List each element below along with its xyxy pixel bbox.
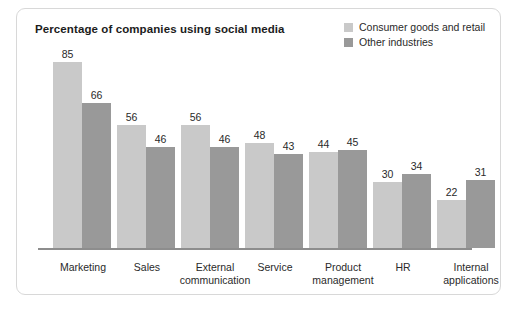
bar-consumer-goods-and-retail[interactable]: 48 — [245, 129, 274, 248]
bar-value-label: 22 — [446, 186, 458, 198]
bar-rect — [402, 174, 431, 248]
category-label-line: applications — [423, 274, 517, 287]
bar-rect — [466, 180, 495, 248]
category-label-marketing: Marketing — [47, 261, 119, 274]
bar-other-industries[interactable]: 45 — [338, 136, 367, 248]
bar-value-label: 30 — [382, 168, 394, 180]
bar-rect — [338, 150, 367, 248]
chart-plot-area: 85 66 Marketing 56 46 Sales — [17, 9, 502, 296]
bar-rect — [146, 147, 175, 248]
bar-rect — [274, 154, 303, 248]
bar-value-label: 45 — [347, 136, 359, 148]
bar-group-external-communication: 56 46 — [181, 111, 239, 248]
bar-value-label: 43 — [283, 140, 295, 152]
bar-value-label: 46 — [155, 133, 167, 145]
bar-group-sales: 56 46 — [117, 111, 175, 248]
bar-group-marketing: 85 66 — [53, 48, 111, 248]
bar-rect — [210, 147, 239, 248]
bar-rect — [82, 103, 111, 248]
category-label-line: Marketing — [47, 261, 119, 274]
bar-rect — [373, 182, 402, 248]
category-label-line: communication — [167, 274, 263, 287]
bar-group-service: 48 43 — [245, 129, 303, 248]
category-label-line: management — [295, 274, 391, 287]
bar-value-label: 85 — [62, 48, 74, 60]
bar-rect — [181, 125, 210, 248]
bar-other-industries[interactable]: 31 — [466, 166, 495, 248]
bar-rect — [309, 152, 338, 248]
bar-other-industries[interactable]: 46 — [146, 133, 175, 248]
x-axis-baseline — [38, 248, 472, 250]
bar-value-label: 34 — [411, 160, 423, 172]
bar-group-product-management: 44 45 — [309, 136, 367, 248]
category-label-line: Internal — [423, 261, 517, 274]
bar-value-label: 48 — [254, 129, 266, 141]
category-label-internal-applications: Internal applications — [423, 261, 517, 287]
bar-consumer-goods-and-retail[interactable]: 56 — [181, 111, 210, 248]
bar-consumer-goods-and-retail[interactable]: 30 — [373, 168, 402, 248]
bar-rect — [245, 143, 274, 248]
bar-consumer-goods-and-retail[interactable]: 56 — [117, 111, 146, 248]
bar-group-internal-applications: 22 31 — [437, 166, 495, 248]
bar-group-hr: 30 34 — [373, 160, 431, 248]
bar-consumer-goods-and-retail[interactable]: 44 — [309, 138, 338, 248]
bar-rect — [437, 200, 466, 248]
chart-card: Percentage of companies using social med… — [16, 8, 501, 295]
bar-value-label: 46 — [219, 133, 231, 145]
bar-other-industries[interactable]: 46 — [210, 133, 239, 248]
bar-other-industries[interactable]: 66 — [82, 89, 111, 248]
bar-consumer-goods-and-retail[interactable]: 85 — [53, 48, 82, 248]
bar-value-label: 44 — [318, 138, 330, 150]
bar-other-industries[interactable]: 34 — [402, 160, 431, 248]
bar-rect — [117, 125, 146, 248]
bar-other-industries[interactable]: 43 — [274, 140, 303, 248]
bar-value-label: 31 — [475, 166, 487, 178]
bar-value-label: 56 — [190, 111, 202, 123]
bar-value-label: 56 — [126, 111, 138, 123]
bar-consumer-goods-and-retail[interactable]: 22 — [437, 186, 466, 248]
bar-value-label: 66 — [91, 89, 103, 101]
bar-rect — [53, 62, 82, 248]
